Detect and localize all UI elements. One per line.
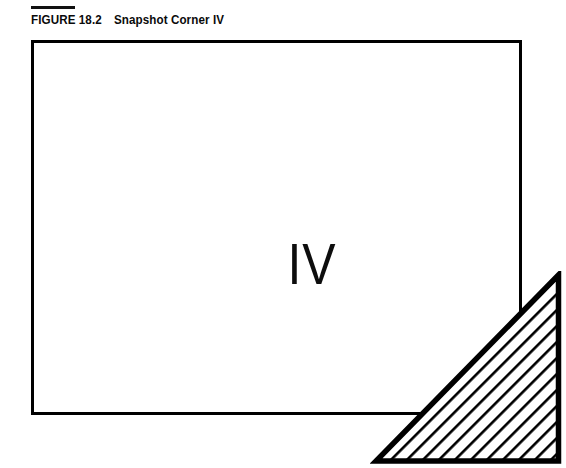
- triangle-hatch-fill: [376, 275, 559, 461]
- bottom-right-hatched-triangle: [370, 271, 566, 468]
- hatched-triangle-svg: [370, 271, 566, 468]
- outer-rectangle: IV: [31, 40, 522, 415]
- caption-rule: [31, 6, 75, 9]
- caption-text: FIGURE 18.2Snapshot Corner IV: [31, 13, 224, 28]
- figure-caption: FIGURE 18.2Snapshot Corner IV: [31, 4, 511, 36]
- caption-figure-title: Snapshot Corner IV: [114, 13, 224, 27]
- triangle-outline: [376, 275, 559, 461]
- quadrant-label-iv: IV: [286, 235, 338, 293]
- caption-figure-number: FIGURE 18.2: [31, 13, 102, 27]
